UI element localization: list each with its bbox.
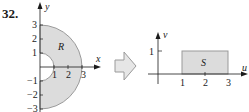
x-tick-1: 1 [52,69,57,80]
right-diagram: v u 1 1 2 3 S [148,29,248,88]
u-axis-label: u [242,62,247,73]
y-tick-neg1: −1 [27,75,38,86]
y-tick-1: 1 [32,47,37,58]
x-tick-3: 3 [81,69,86,80]
region-r-label: R [57,41,64,52]
v-axis-arrow-icon [156,32,161,39]
y-axis-arrow-icon [38,2,43,9]
y-tick-neg2: −2 [27,89,38,100]
v-tick-1: 1 [149,46,154,57]
region-s-label: S [201,57,206,68]
x-tick-2: 2 [66,69,71,80]
y-axis-label: y [44,1,50,12]
u-tick-1: 1 [180,77,185,88]
transform-arrow-icon [115,52,136,80]
y-tick-2: 2 [32,33,37,44]
problem-number: 32. [2,6,18,21]
transformation-figure: 32. y x 1 2 3 3 2 1 −1 −2 −3 R [0,0,249,112]
y-tick-neg3: −3 [27,103,38,112]
x-axis-label: x [95,53,101,64]
y-tick-3: 3 [32,19,37,30]
u-tick-3: 3 [226,77,231,88]
u-tick-2: 2 [203,77,208,88]
v-axis-label: v [163,29,168,40]
x-axis-arrow-icon [94,65,101,70]
left-diagram: y x 1 2 3 3 2 1 −1 −2 −3 R [27,1,101,112]
